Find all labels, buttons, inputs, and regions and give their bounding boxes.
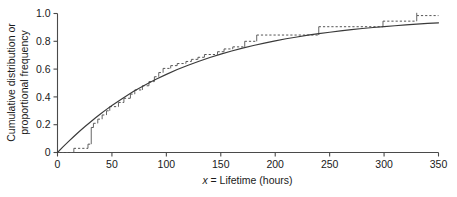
y-tick-label: 0 [45,146,51,158]
x-tick-label: 200 [266,158,284,170]
x-tick-label: 300 [375,158,393,170]
x-axis-label: x = Lifetime (hours) [57,174,438,186]
empirical-step-series [58,13,439,153]
axes-group [58,14,439,153]
y-tick-label: 0.2 [36,118,51,130]
y-tick-label: 1.0 [36,7,51,19]
x-tick-label: 350 [430,158,448,170]
x-tick-label: 100 [158,158,176,170]
y-axis-label-line1: Cumulative distribution or [5,23,18,141]
x-tick-label: 0 [55,158,61,170]
x-tick-label: 150 [212,158,230,170]
chart-figure: Cumulative distribution or proportional … [0,0,457,197]
y-axis-label-line2: proportional frequency [17,23,30,141]
chart-plot-area: 050100150200250300350 00.20.40.60.81.0 [0,0,457,197]
y-axis-ticks: 00.20.40.60.81.0 [36,7,58,158]
theoretical-curve-series [58,23,439,153]
y-tick-label: 0.4 [36,91,51,103]
y-tick-label: 0.6 [36,63,51,75]
x-axis-label-rest: = Lifetime (hours) [208,174,293,186]
x-tick-label: 50 [106,158,118,170]
y-axis-label: Cumulative distribution or proportional … [0,0,34,165]
theoretical-cdf-curve [58,23,439,153]
y-tick-label: 0.8 [36,35,51,47]
x-axis-ticks: 050100150200250300350 [55,153,448,171]
x-tick-label: 250 [321,158,339,170]
